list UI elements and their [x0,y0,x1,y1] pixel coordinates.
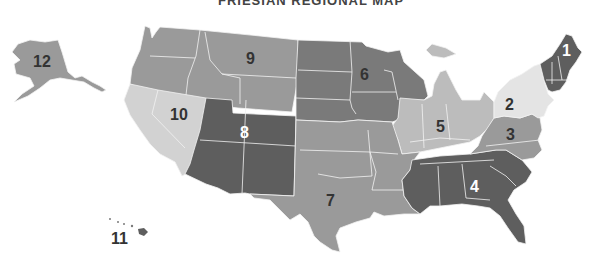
region-label-9: 9 [246,50,255,67]
region-4-southeast[interactable] [402,150,532,244]
region-label-3: 3 [506,126,515,143]
region-label-8: 8 [240,124,249,141]
region-label-11: 11 [111,230,128,247]
region-label-2: 2 [505,96,514,113]
region-label-6: 6 [360,66,369,83]
region-label-1: 1 [562,42,571,59]
region-label-10: 10 [170,106,188,123]
region-label-4: 4 [470,178,479,195]
region-5-great-lakes[interactable] [392,44,494,154]
region-label-5: 5 [436,118,445,135]
us-regional-map: 12 9 10 8 6 5 2 3 1 4 7 11 [0,0,597,258]
region-label-12: 12 [33,53,51,70]
region-label-7: 7 [326,192,335,209]
region-12-alaska[interactable] [12,40,106,102]
region-1-new-england[interactable] [540,34,582,92]
